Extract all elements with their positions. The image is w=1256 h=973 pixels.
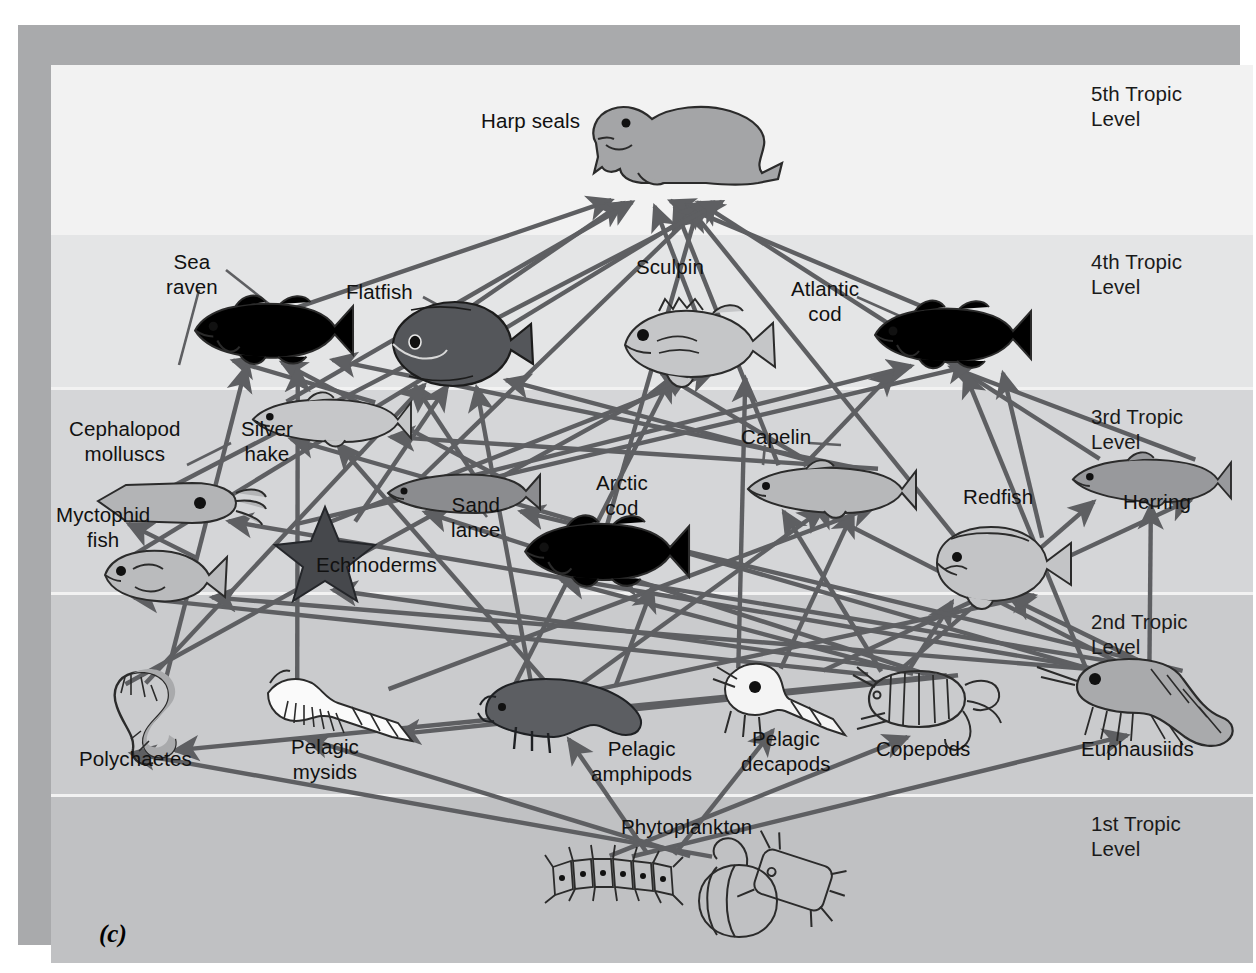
band-divider-t4	[51, 232, 1253, 235]
label-pelagic-decapods: Pelagic decapods	[741, 727, 831, 776]
label-euphausiids: Euphausiids	[1081, 737, 1194, 762]
label-atlantic-cod: Atlantic cod	[791, 277, 859, 326]
trophic-band-t5	[51, 65, 1253, 233]
label-pelagic-mysids: Pelagic mysids	[291, 735, 359, 784]
level-label-t4: 4th Tropic Level	[1091, 249, 1182, 299]
figure-outer-frame: Harp sealsSea ravenFlatfishSculpinAtlant…	[18, 25, 1240, 945]
label-polychaetes: Polychaetes	[79, 747, 192, 772]
level-label-t2: 2nd Tropic Level	[1091, 609, 1188, 659]
label-pelagic-amphipods: Pelagic amphipods	[591, 737, 692, 786]
level-label-t5: 5th Tropic Level	[1091, 81, 1182, 131]
label-echinoderms: Echinoderms	[316, 553, 437, 578]
label-sand-lance: Sand lance	[451, 493, 501, 542]
label-herring: Herring	[1123, 490, 1191, 515]
band-divider-t3	[51, 387, 1253, 390]
band-divider-t2	[51, 592, 1253, 595]
label-cephalopod-molluscs: Cephalopod molluscs	[69, 417, 181, 466]
band-divider-t1	[51, 794, 1253, 797]
label-redfish: Redfish	[963, 485, 1033, 510]
figure-letter: (c)	[99, 920, 127, 948]
label-sea-raven: Sea raven	[166, 250, 218, 299]
label-arctic-cod: Arctic cod	[596, 471, 648, 520]
label-silver-hake: Silver hake	[241, 417, 293, 466]
trophic-band-t3	[51, 388, 1253, 593]
level-label-t1: 1st Tropic Level	[1091, 811, 1181, 861]
label-flatfish: Flatfish	[346, 280, 413, 305]
label-sculpin: Sculpin	[636, 255, 704, 280]
label-copepods: Copepods	[876, 737, 970, 762]
label-harp-seals: Harp seals	[481, 109, 580, 134]
label-capelin: Capelin	[741, 425, 811, 450]
label-myctophid-fish: Myctophid fish	[56, 503, 150, 552]
figure-canvas: Harp sealsSea ravenFlatfishSculpinAtlant…	[51, 65, 1253, 963]
label-phytoplankton: Phytoplankton	[621, 815, 752, 840]
level-label-t3: 3rd Tropic Level	[1091, 404, 1183, 454]
figure-page: Harp sealsSea ravenFlatfishSculpinAtlant…	[0, 0, 1256, 973]
